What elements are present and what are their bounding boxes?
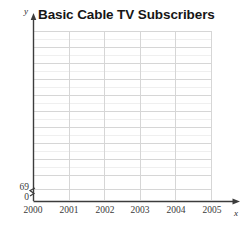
x-tick-label-2004: 2004 xyxy=(159,205,193,215)
x-axis-label: x xyxy=(234,208,238,218)
plot-area xyxy=(0,0,246,227)
y-tick-label-69: 69 xyxy=(8,182,29,192)
chart-screenshot: Basic Cable TV Subscribers xyxy=(0,0,246,227)
x-tick-label-2005: 2005 xyxy=(195,205,229,215)
y-axis-arrowhead xyxy=(31,13,37,20)
x-tick-label-2003: 2003 xyxy=(123,205,157,215)
x-tick-label-2002: 2002 xyxy=(88,205,122,215)
x-axis-arrowhead xyxy=(233,199,241,205)
x-tick-label-2000: 2000 xyxy=(16,205,50,215)
y-tick-label-origin: 0 xyxy=(8,192,29,202)
grid-horizontal-minor xyxy=(34,40,212,168)
y-axis-label: y xyxy=(24,6,28,16)
x-tick-label-2001: 2001 xyxy=(52,205,86,215)
grid-vertical xyxy=(70,31,212,200)
